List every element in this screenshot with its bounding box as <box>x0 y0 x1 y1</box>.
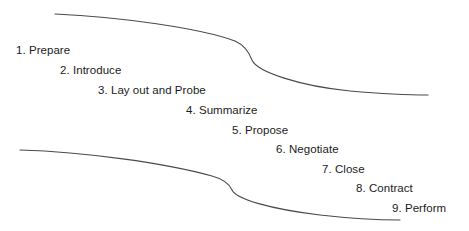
step-label-9: 9. Perform <box>392 202 446 215</box>
step-label-2: 2. Introduce <box>60 64 121 77</box>
upper-curve-line <box>55 14 428 95</box>
step-label-6: 6. Negotiate <box>276 143 339 156</box>
step-label-7: 7. Close <box>322 163 365 176</box>
step-label-1: 1. Prepare <box>16 44 70 57</box>
step-label-5: 5. Propose <box>232 124 288 137</box>
lower-curve-line <box>20 150 400 220</box>
step-label-4: 4. Summarize <box>186 104 258 117</box>
sales-process-diagram: 1. Prepare 2. Introduce 3. Lay out and P… <box>0 0 469 231</box>
step-label-8: 8. Contract <box>356 182 413 195</box>
step-label-3: 3. Lay out and Probe <box>98 84 206 97</box>
